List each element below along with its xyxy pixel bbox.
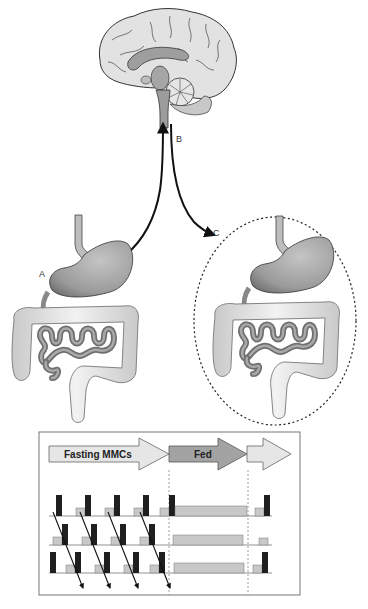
label-a: A — [39, 269, 45, 279]
neural-pathway-arrows — [53, 124, 215, 287]
phase-label-fasting: Fasting MMCs — [64, 449, 132, 460]
label-c: C — [213, 228, 220, 238]
gi-tract-left — [12, 215, 138, 423]
label-b: B — [176, 134, 182, 144]
phase-label-fed: Fed — [194, 449, 212, 460]
brain-illustration — [99, 9, 236, 128]
figure-canvas: B A C — [0, 0, 368, 609]
gi-tract-right — [213, 216, 339, 419]
mmc-chart: Fasting MMCs Fed — [39, 432, 300, 595]
